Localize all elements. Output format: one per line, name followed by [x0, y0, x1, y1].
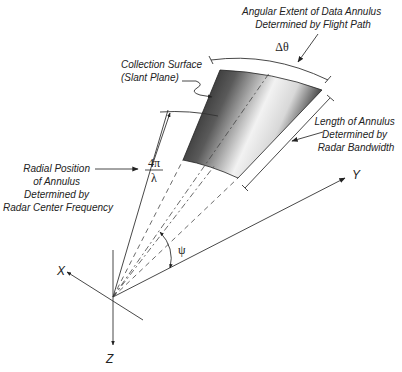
angular-extent-arrow	[298, 34, 318, 62]
length-annulus-label: Length of Annulus Determined by Radar Ba…	[314, 116, 397, 153]
angular-extent-label: Angular Extent of Data Annulus Determine…	[241, 6, 384, 30]
collection-surface-pointer	[182, 81, 212, 97]
collection-surface-label: Collection Surface (Slant Plane)	[121, 59, 205, 83]
slant-plane-collection-diagram: Angular Extent of Data Annulus Determine…	[0, 0, 402, 372]
radial-position-label: Radial Position of Annulus Determined by…	[3, 163, 114, 213]
y-axis-label: Y	[352, 168, 361, 182]
psi-angle-arc	[160, 232, 171, 268]
radial-line	[113, 110, 168, 297]
svg-text:λ: λ	[151, 171, 157, 185]
collection-surface	[183, 70, 322, 178]
z-axis-label: Z	[105, 352, 114, 366]
four-pi-over-lambda: 4π λ	[145, 156, 163, 185]
x-axis-label: X	[56, 264, 66, 278]
dashed-rays	[113, 72, 270, 297]
delta-theta-symbol: Δθ	[275, 40, 289, 54]
psi-symbol: ψ	[178, 243, 186, 257]
svg-text:4π: 4π	[148, 156, 160, 170]
delta-theta-tick-right	[325, 76, 331, 83]
